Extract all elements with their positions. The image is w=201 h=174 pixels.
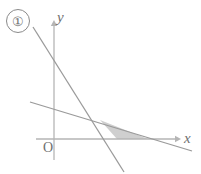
figure-container: ① y x O	[0, 0, 201, 174]
origin-label: O	[43, 141, 53, 155]
axes-group	[36, 20, 181, 160]
y-axis-label: y	[57, 10, 64, 25]
x-axis-arrow-icon	[175, 136, 181, 142]
coordinate-plot	[0, 0, 201, 174]
x-axis-label: x	[184, 131, 191, 146]
